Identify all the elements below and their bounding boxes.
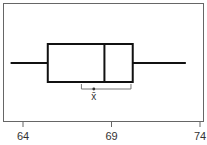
x-tick-label: 74 bbox=[194, 130, 206, 142]
x-axis: 646974 bbox=[17, 122, 206, 142]
mean-label: x̄ bbox=[91, 91, 96, 102]
x-tick-label: 69 bbox=[105, 130, 117, 142]
mean-marker bbox=[92, 88, 95, 91]
x-tick-label: 64 bbox=[17, 130, 29, 142]
box-plot: x̄ 646974 bbox=[0, 0, 207, 145]
